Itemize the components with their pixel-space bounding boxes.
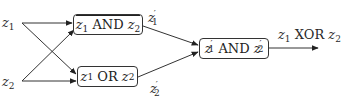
input-z2: z2 xyxy=(2,75,15,93)
nand-overline: z1 AND z2 xyxy=(76,15,141,34)
edge-z2-nand xyxy=(22,30,74,81)
input-z1: z1 xyxy=(2,16,15,34)
or-gate: z1 OR z2 xyxy=(77,66,138,87)
label-z1-prime: z′1 xyxy=(148,11,158,29)
edge-or-and xyxy=(138,52,198,77)
nand-gate: z1 AND z2 xyxy=(73,14,143,35)
label-z2-prime: z′2 xyxy=(150,82,160,99)
edge-z1-or xyxy=(22,23,76,74)
edges-layer xyxy=(0,0,344,99)
and-gate-final: z′1 AND z′2 xyxy=(199,38,269,59)
output-label: z1 XOR z2 xyxy=(278,28,341,46)
